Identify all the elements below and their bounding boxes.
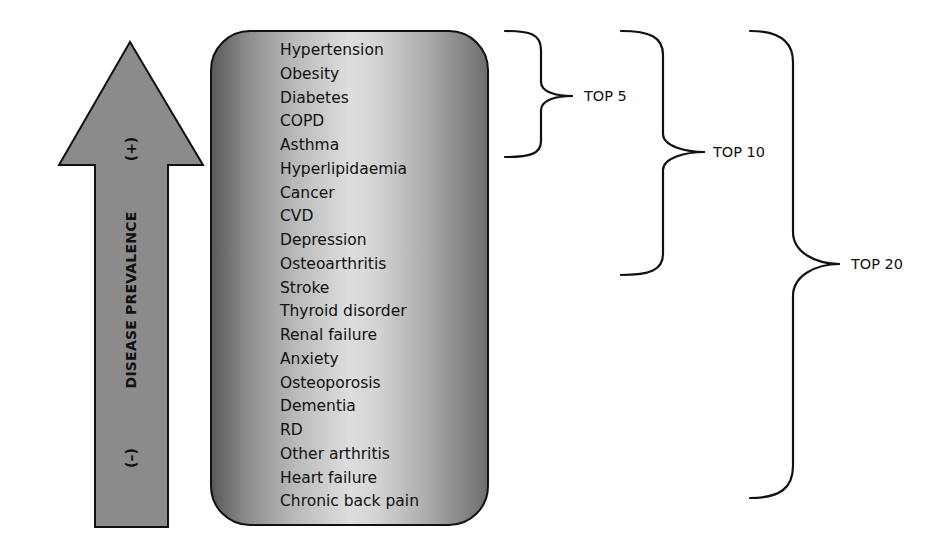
group-label-top10: TOP 10 — [713, 144, 765, 160]
group-label-top5: TOP 5 — [584, 88, 627, 104]
group-braces — [0, 0, 950, 539]
brace-top5-icon — [505, 31, 573, 157]
group-label-top20: TOP 20 — [851, 256, 903, 272]
brace-top20-icon — [750, 31, 840, 498]
brace-top10-icon — [621, 31, 705, 275]
